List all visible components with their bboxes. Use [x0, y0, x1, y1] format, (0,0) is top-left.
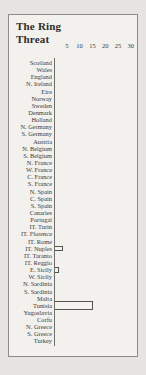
- category-label: S. Spain: [9, 202, 52, 209]
- category-label: N. Greece: [9, 323, 52, 330]
- category-label: Wales: [9, 66, 52, 73]
- category-label: S. Greece: [9, 330, 52, 337]
- category-label: England: [9, 73, 52, 80]
- category-label: S. France: [9, 180, 52, 187]
- x-axis-tick-label: 25: [115, 42, 122, 49]
- category-label: N. Sardinia: [9, 280, 52, 287]
- category-label: C. Spain: [9, 195, 52, 202]
- x-axis-tick-label: 5: [65, 42, 68, 49]
- category-label: Eire: [9, 88, 52, 95]
- bar: [55, 301, 93, 310]
- chart-panel: The Ring Threat 51015202530 ScotlandWale…: [8, 14, 138, 357]
- plot-area: [54, 58, 139, 346]
- category-label: IT. Turin: [9, 223, 52, 230]
- category-label: Turkey: [9, 337, 52, 344]
- category-label: Canaries: [9, 209, 52, 216]
- category-label: Tunisia: [9, 302, 52, 309]
- category-label: Norway: [9, 95, 52, 102]
- category-label: IT. Rome: [9, 238, 52, 245]
- category-label: Yugoslavia: [9, 309, 52, 316]
- category-label: N. Germany: [9, 123, 52, 130]
- category-label: N. Spain: [9, 188, 52, 195]
- category-label: C. France: [9, 173, 52, 180]
- x-axis-tick-labels: 51015202530: [54, 42, 138, 51]
- category-label: W. Sicily: [9, 273, 52, 280]
- category-label: Scotland: [9, 59, 52, 66]
- category-label: S. Belgium: [9, 152, 52, 159]
- category-label: IT. Florence: [9, 230, 52, 237]
- category-label: Austria: [9, 138, 52, 145]
- x-axis-tick-label: 20: [102, 42, 109, 49]
- category-label: N. Belgium: [9, 145, 52, 152]
- category-label: Malta: [9, 295, 52, 302]
- category-label: Holland: [9, 116, 52, 123]
- category-label: Portugal: [9, 216, 52, 223]
- category-label: IT. Nuples: [9, 245, 52, 252]
- bar: [55, 246, 63, 252]
- category-label: E. Sicily: [9, 266, 52, 273]
- bar: [55, 267, 59, 273]
- category-label: Corfu: [9, 316, 52, 323]
- x-axis-tick-label: 10: [76, 42, 83, 49]
- x-axis-tick-label: 15: [89, 42, 96, 49]
- chart-title-line1: The Ring: [16, 20, 61, 33]
- category-column: ScotlandWalesEnglandN. IrelandEireNorway…: [9, 59, 52, 346]
- category-label: IT. Reggio: [9, 259, 52, 266]
- category-label: W. France: [9, 166, 52, 173]
- category-label: S. Germany: [9, 130, 52, 137]
- category-label: Denmark: [9, 109, 52, 116]
- category-label: N. France: [9, 159, 52, 166]
- category-label: IT. Taranto: [9, 252, 52, 259]
- category-label: Sweden: [9, 102, 52, 109]
- category-label: S. Sardinia: [9, 288, 52, 295]
- x-axis-tick-label: 30: [128, 42, 135, 49]
- category-label: N. Ireland: [9, 80, 52, 87]
